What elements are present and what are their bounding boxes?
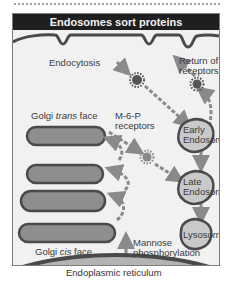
label-late-line2: Endosome: [183, 187, 220, 197]
dotted-separator: [14, 3, 220, 5]
label-er: Endoplasmic reticulum: [66, 268, 162, 278]
label-lysosome: Lysosome: [183, 230, 220, 240]
to-late-endosome-arrow: [155, 164, 177, 178]
receptor-icon: [130, 73, 144, 87]
label-early-line2: Endosome: [183, 135, 220, 145]
label-golgi-trans: Golgi trans face: [31, 111, 98, 121]
label-golgi-cis: Golgi cis face: [35, 247, 92, 257]
plasma-membrane: [13, 35, 219, 47]
to-early-endosome-arrow: [145, 86, 185, 122]
golgi-cisterna-4: [19, 224, 115, 242]
receptor-icon: [141, 151, 154, 164]
label-return-line2: receptors: [179, 66, 219, 76]
label-endocytosis: Endocytosis: [49, 58, 100, 68]
receptor-icon: [191, 78, 204, 91]
golgi-cisterna-2: [27, 165, 103, 183]
label-m6p-line2: receptors: [115, 121, 155, 131]
golgi-cisterna-3: [21, 191, 105, 211]
endocytosis-arrow: [117, 62, 125, 70]
m6p-arrow: [109, 132, 137, 150]
golgi-cisterna-1: [27, 127, 105, 145]
diagram-panel: Endosomes sort proteins: [12, 13, 220, 266]
label-mannose-line2: phosphorylation: [133, 248, 200, 258]
